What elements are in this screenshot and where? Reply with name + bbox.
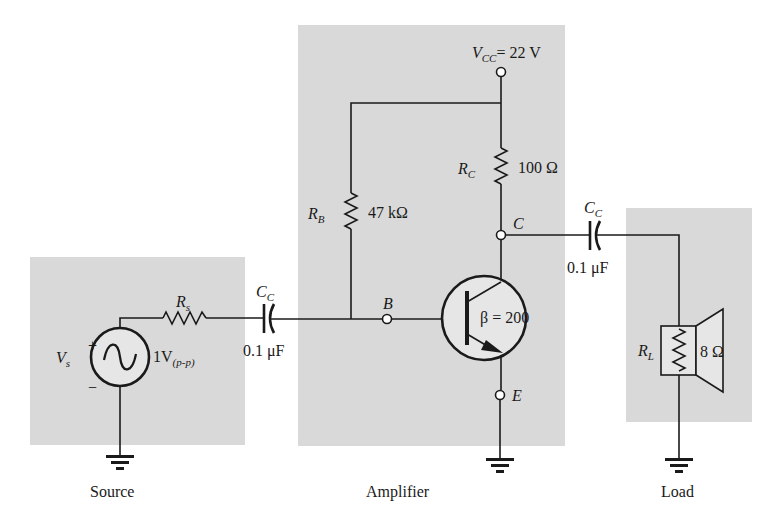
load-panel <box>626 208 752 422</box>
ground-icon-source <box>106 455 134 470</box>
rb-value: 47 kΩ <box>368 205 408 221</box>
rs-label: Rs <box>176 294 190 310</box>
source-caption: Source <box>90 484 134 500</box>
vcc-label: VCC= 22 V <box>472 45 541 61</box>
amplifier-caption: Amplifier <box>366 484 429 500</box>
base-terminal <box>383 315 392 324</box>
circuit-diagram: Rs CC 0.1 μF + − Vs 1V(p-p) VCC= 22 V RC… <box>0 0 774 530</box>
cc-input-label: CC <box>256 284 274 300</box>
vs-plus-sign: + <box>88 338 97 354</box>
cc-input-value: 0.1 μF <box>243 343 284 359</box>
rl-label: RL <box>638 343 654 359</box>
base-node-label: B <box>383 296 393 312</box>
cc-output-label: CC <box>584 200 602 216</box>
ground-icon-amplifier <box>486 458 514 473</box>
beta-label: β = 200 <box>480 310 529 326</box>
rc-label: RC <box>458 161 475 177</box>
emitter-node-label: E <box>512 388 522 404</box>
rb-label: RB <box>308 206 325 222</box>
vs-label: Vs <box>56 350 70 366</box>
circuit-schematic <box>0 0 774 530</box>
load-caption: Load <box>661 484 694 500</box>
rl-value: 8 Ω <box>700 344 724 360</box>
rc-value: 100 Ω <box>518 160 558 176</box>
vcc-terminal <box>497 68 506 77</box>
ac-voltage-source <box>91 328 149 386</box>
collector-node-label: C <box>513 216 524 232</box>
ground-icon-load <box>665 458 693 473</box>
emitter-terminal <box>496 391 505 400</box>
vs-value: 1V(p-p) <box>153 349 195 365</box>
vs-minus-sign: − <box>88 380 97 396</box>
collector-terminal <box>497 231 506 240</box>
cc-output-value: 0.1 μF <box>567 260 608 276</box>
